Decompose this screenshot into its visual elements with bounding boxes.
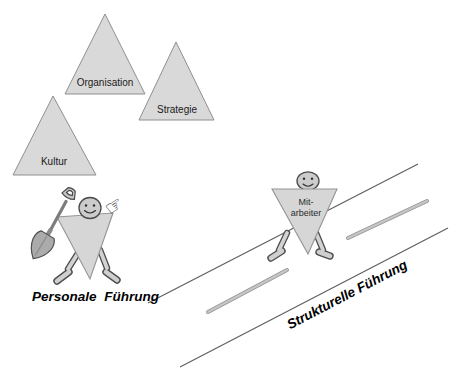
- diagram-stage: Mit- arbeiter Organisation Strategie Kul…: [0, 0, 463, 380]
- kultur-label: Kultur: [41, 156, 68, 167]
- personale-caption: Personale Führung: [32, 289, 160, 304]
- fuehrung-diagram-canvas: Mit- arbeiter Organisation Strategie Kul…: [0, 0, 463, 380]
- strategie-label: Strategie: [157, 104, 197, 115]
- context-triangles: Organisation Strategie Kultur: [13, 14, 214, 175]
- structural-bar-left: [208, 270, 287, 312]
- mitarbeiter-figure: Mit- arbeiter: [271, 172, 337, 258]
- mitarbeiter-label-line1: Mit-: [299, 197, 314, 207]
- mitarbeiter-head: [297, 172, 319, 190]
- structural-bar-right: [348, 201, 427, 238]
- structural-line-thin-lower: [180, 228, 448, 367]
- personale-figure: ☞: [24, 185, 128, 281]
- organisation-label: Organisation: [77, 77, 134, 88]
- personale-head: [79, 198, 101, 219]
- mitarbeiter-label-line2: arbeiter: [291, 208, 322, 218]
- strukturelle-caption: Strukturelle Führung: [284, 257, 410, 332]
